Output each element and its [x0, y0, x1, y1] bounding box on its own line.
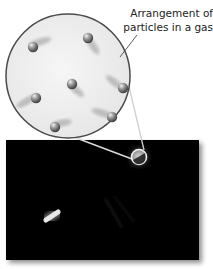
zoom-region-circle [129, 147, 149, 167]
magnified-circle [6, 14, 130, 138]
label-line-2: particles in a gas [118, 20, 213, 34]
gas-diagram [0, 0, 213, 269]
label-line-1: Arrangement of [118, 6, 213, 20]
photo-panel [6, 140, 199, 260]
diagram-label: Arrangement of particles in a gas [118, 6, 213, 34]
